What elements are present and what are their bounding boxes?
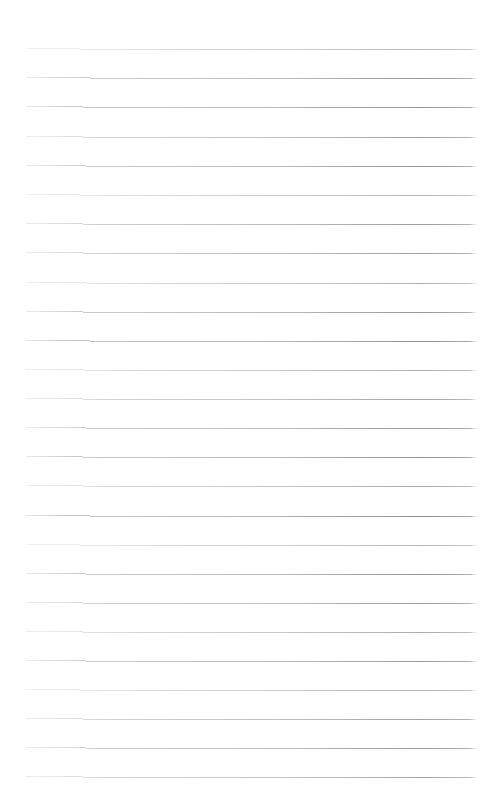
rule-line-stroke <box>26 485 477 488</box>
rule-line-stroke <box>26 282 477 285</box>
rule-line[interactable] <box>26 48 477 51</box>
rule-line-stroke <box>26 165 477 168</box>
rule-line[interactable] <box>26 776 477 779</box>
rule-line[interactable] <box>26 369 477 372</box>
rule-line-stroke <box>26 340 477 343</box>
rule-line[interactable] <box>26 77 477 80</box>
rule-line[interactable] <box>26 340 477 343</box>
rule-line-stroke <box>26 544 477 547</box>
rule-line-stroke <box>26 573 477 576</box>
rule-line-stroke <box>26 194 477 197</box>
rule-line[interactable] <box>26 515 477 518</box>
rule-line-stroke <box>26 427 477 430</box>
rule-line-stroke <box>26 747 477 750</box>
rule-line[interactable] <box>26 631 477 634</box>
rule-line-stroke <box>26 456 477 459</box>
rule-line[interactable] <box>26 602 477 605</box>
rule-line-stroke <box>26 136 477 139</box>
rule-line[interactable] <box>26 660 477 663</box>
rule-line-stroke <box>26 252 477 255</box>
rule-line[interactable] <box>26 311 477 314</box>
rule-line[interactable] <box>26 689 477 692</box>
rule-line[interactable] <box>26 573 477 576</box>
rule-line[interactable] <box>26 718 477 721</box>
rule-line-stroke <box>26 631 477 634</box>
ruled-writing-area[interactable] <box>0 0 494 812</box>
rule-line-stroke <box>26 689 477 692</box>
rule-line-stroke <box>26 515 477 518</box>
rule-line-stroke <box>26 398 477 401</box>
rule-line-stroke <box>26 48 477 51</box>
rule-line[interactable] <box>26 485 477 488</box>
rule-line-stroke <box>26 77 477 80</box>
rule-line-stroke <box>26 602 477 605</box>
rule-line-stroke <box>26 660 477 663</box>
rule-line[interactable] <box>26 165 477 168</box>
rule-line[interactable] <box>26 252 477 255</box>
rule-line[interactable] <box>26 106 477 109</box>
rule-line[interactable] <box>26 456 477 459</box>
rule-line[interactable] <box>26 398 477 401</box>
rule-line[interactable] <box>26 747 477 750</box>
rule-line[interactable] <box>26 136 477 139</box>
rule-line-stroke <box>26 311 477 314</box>
rule-line[interactable] <box>26 282 477 285</box>
rule-line-stroke <box>26 776 477 779</box>
rule-line-stroke <box>26 369 477 372</box>
rule-line-stroke <box>26 106 477 109</box>
bottom-margin <box>0 780 494 812</box>
rule-line-stroke <box>26 718 477 721</box>
notebook-page <box>0 0 494 812</box>
rule-line[interactable] <box>26 427 477 430</box>
rule-line-stroke <box>26 223 477 226</box>
rule-line[interactable] <box>26 223 477 226</box>
rule-line[interactable] <box>26 544 477 547</box>
rule-line[interactable] <box>26 194 477 197</box>
